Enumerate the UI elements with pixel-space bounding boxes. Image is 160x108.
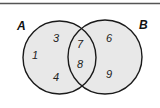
a-only-element: 1 [32,49,38,61]
venn-diagram: A B 3 1 4 7 8 6 9 [0,0,160,108]
intersection-element: 8 [77,58,84,70]
intersection-element: 7 [77,38,84,50]
a-only-element: 4 [53,71,59,83]
a-only-element: 3 [53,32,60,44]
b-only-element: 9 [106,68,112,80]
set-a-label: A [16,19,26,33]
b-only-element: 6 [106,32,113,44]
set-b-label: B [139,18,148,32]
